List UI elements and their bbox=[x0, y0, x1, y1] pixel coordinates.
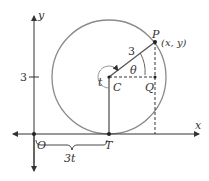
x-axis-label: x bbox=[195, 119, 202, 132]
y-tick-label: 3 bbox=[20, 71, 27, 84]
brace-3t bbox=[36, 140, 107, 150]
theta-label: θ bbox=[130, 64, 137, 77]
point-C-label: C bbox=[113, 81, 122, 94]
point-P-label: P bbox=[151, 28, 160, 41]
y-axis-label: y bbox=[37, 9, 45, 22]
rolling-circle-diagram: y x 3 O T C Q P (x, y) 3 θ t 3t bbox=[0, 0, 209, 181]
angle-theta-arc bbox=[140, 53, 145, 75]
brace-label: 3t bbox=[64, 152, 76, 165]
point-P-coords: (x, y) bbox=[161, 37, 187, 48]
point-T-label: T bbox=[105, 139, 114, 152]
point-Q bbox=[153, 75, 156, 78]
point-T bbox=[107, 132, 111, 136]
point-O bbox=[32, 132, 36, 136]
point-Q-label: Q bbox=[145, 81, 154, 94]
t-label: t bbox=[98, 76, 103, 89]
origin-label: O bbox=[37, 139, 46, 152]
radius-label: 3 bbox=[128, 45, 135, 58]
point-C bbox=[107, 75, 110, 78]
